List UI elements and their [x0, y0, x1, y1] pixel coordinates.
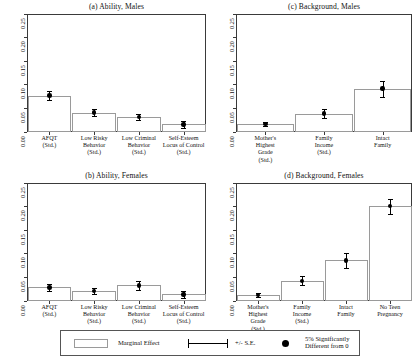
figure-canvas: (a) Ability, Males0.000.050.100.150.200.… — [0, 0, 418, 362]
legend-error-bar-line — [188, 343, 228, 344]
legend-label-significance: 5% Significantly Different from 0 — [305, 335, 350, 350]
legend-label-se: +/- S.E. — [235, 339, 255, 346]
legend-error-bar-cap-left — [188, 339, 189, 348]
legend-swatch-marginal-effect — [74, 339, 108, 348]
legend-container: Marginal Effect+/- S.E.5% Significantly … — [0, 0, 418, 362]
legend-significance-dot — [282, 340, 289, 347]
legend-label-marginal-effect: Marginal Effect — [118, 339, 160, 346]
legend-error-bar-cap-right — [227, 339, 228, 348]
